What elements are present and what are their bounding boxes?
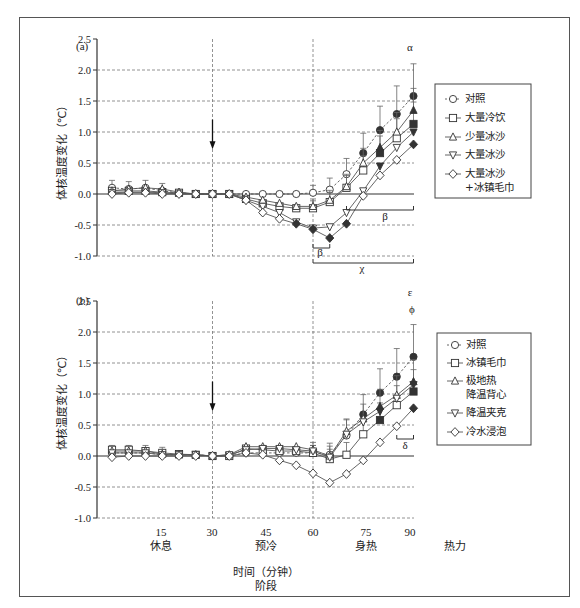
legend-b-control: 对照: [466, 338, 487, 350]
x-tick-75: 75: [361, 526, 373, 538]
x-axis-sublabel: 阶段: [255, 579, 277, 593]
phase-body-heat: 身热: [355, 539, 377, 553]
panel-b-plot: 2.52.01.51.00.50.0-0.5-1.0: [74, 296, 463, 524]
legend-a-slushy-towel-2: +冰镇毛巾: [465, 181, 514, 193]
y-tick-label: -0.5: [74, 220, 91, 231]
legend-b-vest-2: 降温背心: [466, 388, 507, 400]
x-tick-60: 60: [308, 526, 320, 538]
annotation-phi: ϕ: [409, 303, 415, 315]
legend-a-cold-drink: 大量冷饮: [465, 111, 506, 123]
y-tick-label: 0.5: [78, 420, 91, 431]
x-tick-30: 30: [207, 526, 219, 538]
y-tick-label: 1.0: [78, 127, 91, 138]
y-tick-label: 1.5: [78, 358, 91, 369]
y-tick-label: 2.5: [78, 296, 91, 307]
legend-a: 对照 大量冷饮 少量冰沙 大量冰沙 大量冰沙 +冰镇毛巾: [435, 84, 531, 198]
x-tick-15: 15: [156, 526, 168, 538]
legend-b: 对照 冰镇毛巾 极地热 降温背心 降温夹克 冷水浸泡: [437, 333, 531, 445]
panel-a-plot: 2.52.01.51.00.50.0-0.5-1.0: [74, 34, 461, 264]
chart-canvas: (a) (b) 体核温度变化（℃） 体核温度变化（℃） α β β χ ε ϕ …: [0, 0, 580, 608]
phase-labels: 休息 预冷 身热 热力: [150, 539, 466, 553]
legend-b-jacket: 降温夹克: [466, 406, 507, 418]
y-tick-label: -1.0: [74, 513, 91, 524]
arrow-head-icon: [210, 403, 216, 411]
legend-a-large-slushy: 大量冰沙: [465, 148, 506, 160]
legend-b-immersion: 冷水浸泡: [466, 425, 507, 437]
series-circle: [108, 64, 417, 198]
series-triangle-up: [108, 360, 417, 459]
annotation-alpha: α: [407, 41, 413, 53]
legend-a-slushy-towel: 大量冰沙: [465, 167, 506, 179]
panel-a-ylabel: 体核温度变化（℃）: [55, 100, 69, 200]
y-tick-label: 2.0: [78, 327, 91, 338]
phase-rest: 休息: [150, 539, 172, 553]
y-tick-label: -0.5: [74, 482, 91, 493]
y-tick-label: 2.5: [78, 34, 91, 45]
y-tick-label: 0.0: [78, 451, 91, 462]
annotation-chi: χ: [359, 262, 365, 274]
annotation-epsilon: ε: [408, 286, 413, 298]
phase-heat-stress: 热力: [444, 540, 466, 553]
annotation-delta: δ: [402, 439, 407, 451]
legend-a-control: 对照: [465, 92, 486, 104]
panel-b-ylabel: 体核温度变化（℃）: [55, 350, 69, 450]
y-tick-label: 0.5: [78, 158, 91, 169]
series-circle: [108, 325, 417, 460]
y-tick-label: 1.5: [78, 96, 91, 107]
legend-b-towel: 冰镇毛巾: [466, 356, 506, 368]
x-tick-90: 90: [405, 526, 417, 538]
legend-a-small-slushy: 少量冰沙: [465, 130, 506, 142]
series-triangle-down: [108, 382, 417, 462]
legend-b-vest: 极地热: [466, 374, 497, 386]
x-axis-label: 时间（分钟）: [233, 565, 299, 579]
arrow-head-icon: [210, 141, 216, 149]
y-tick-label: 0.0: [78, 189, 91, 200]
x-tick-labels: 15 30 45 60 75 90: [156, 526, 417, 538]
y-tick-label: 2.0: [78, 65, 91, 76]
annotation-beta-late: β: [382, 210, 388, 222]
y-tick-label: -1.0: [74, 251, 91, 262]
x-tick-45: 45: [261, 526, 273, 538]
y-tick-label: 1.0: [78, 389, 91, 400]
phase-precool: 预冷: [255, 540, 277, 553]
